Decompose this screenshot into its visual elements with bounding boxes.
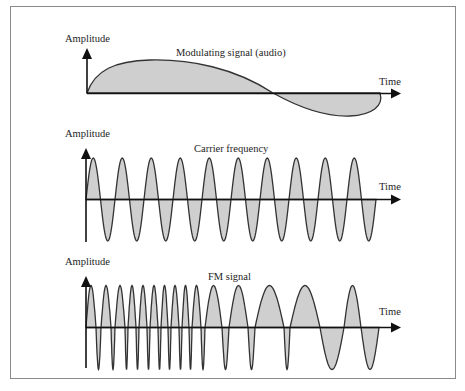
x-axis-arrow-icon (391, 89, 401, 99)
x-axis-label: Time (379, 306, 401, 317)
x-axis-label: Time (379, 76, 401, 87)
fm-diagram: Amplitude Time Modulating signal (audio)… (0, 0, 465, 391)
x-axis-label: Time (379, 181, 401, 192)
panel-fm-signal: Amplitude Time FM signal (65, 256, 401, 370)
panel-title: FM signal (208, 271, 251, 282)
y-axis-arrow-icon (82, 48, 92, 59)
panel-modulating-signal: Amplitude Time Modulating signal (audio) (65, 33, 401, 116)
panel-carrier-frequency: Amplitude Time Carrier frequency (65, 128, 401, 242)
panel-title: Carrier frequency (194, 143, 269, 154)
panel-title: Modulating signal (audio) (176, 47, 286, 59)
y-axis-arrow-icon (81, 276, 91, 287)
y-axis-label: Amplitude (65, 33, 110, 44)
x-axis-arrow-icon (391, 195, 401, 205)
y-axis-arrow-icon (81, 148, 91, 159)
y-axis-label: Amplitude (65, 128, 110, 139)
modulating-signal-wave (87, 60, 381, 116)
x-axis-arrow-icon (391, 323, 401, 333)
y-axis-label: Amplitude (65, 256, 110, 267)
